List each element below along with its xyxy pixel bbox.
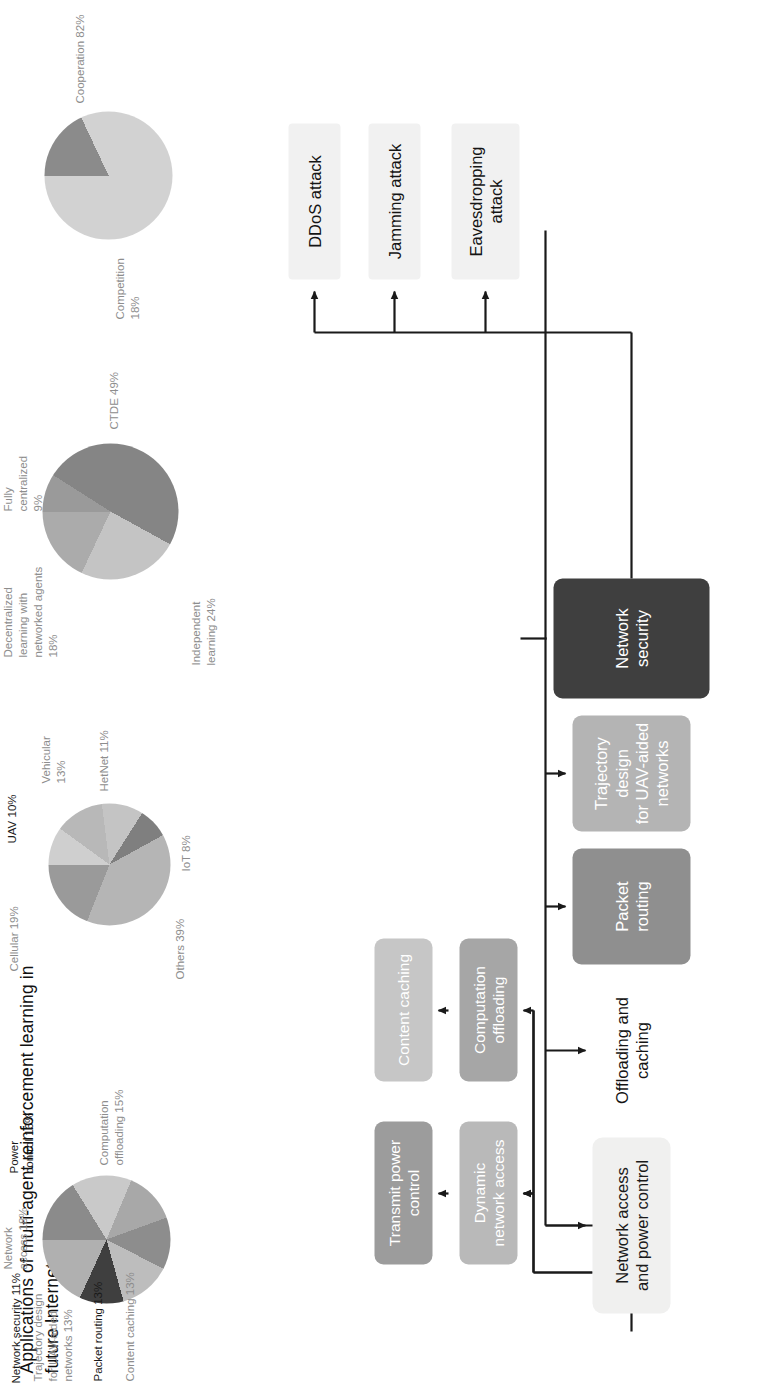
node-network-access-and-power-control[interactable]: Network access and power control xyxy=(592,1137,670,1313)
node-label: Network security xyxy=(611,584,652,692)
node-dynamic-network-access[interactable]: Dynamic network access xyxy=(459,1121,517,1264)
pie-label-others: Others 39% xyxy=(172,899,187,979)
pie-chart-applications xyxy=(42,1175,170,1303)
pie-label-hetnet: HetNet 11% xyxy=(96,715,111,791)
node-label: Network access and power control xyxy=(611,1143,652,1307)
pie-label-packet-routing: Packet routing 13% xyxy=(90,1263,105,1381)
pie-label-content-caching: Content caching 13% xyxy=(122,1263,137,1381)
node-network-security[interactable]: Network security xyxy=(553,578,709,698)
pie-label-independent: Independent learning 24% xyxy=(188,569,218,665)
pie-label-competition: Competition 18% xyxy=(112,237,142,319)
node-eavesdropping-attack[interactable]: Eavesdropping attack xyxy=(451,123,519,279)
pie-label-trajectory: Trajectory design for UAV-aided networks… xyxy=(30,1285,75,1381)
pie-label-decentralized: Decentralized learning with networked ag… xyxy=(0,547,60,657)
node-label: Eavesdropping attack xyxy=(465,129,506,273)
node-label: Packet routing xyxy=(611,854,652,958)
node-packet-routing[interactable]: Packet routing xyxy=(572,848,690,964)
node-label: Trajectory design for UAV-aided networks xyxy=(590,721,672,825)
pie-label-cellular: Cellular 19% xyxy=(6,875,21,971)
node-ddos-attack[interactable]: DDoS attack xyxy=(288,123,340,279)
node-label: Offloading and caching xyxy=(611,981,652,1119)
pie-label-network-security: Network security 11% xyxy=(8,1253,23,1383)
pie-chart-training xyxy=(42,443,178,579)
pie-label-cooperation: Cooperation 82% xyxy=(72,0,87,103)
node-trajectory-design[interactable]: Trajectory design for UAV-aided networks xyxy=(572,715,690,831)
pie-label-fully-centralized: Fully centralized 9% xyxy=(0,425,45,511)
pie-label-power-control: Power control 16% xyxy=(6,1093,36,1173)
node-jamming-attack[interactable]: Jamming attack xyxy=(368,123,420,279)
node-computation-offloading[interactable]: Computation offloading xyxy=(459,938,517,1081)
pie-label-vehicular: Vehicular 13% xyxy=(38,721,68,783)
pie-label-ctde: CTDE 49% xyxy=(106,349,121,429)
node-label: Jamming attack xyxy=(384,129,404,273)
pie-chart-networks xyxy=(48,803,170,925)
figure-canvas-rotated: Applications of multi-agent reinforcemen… xyxy=(0,0,771,1391)
pie-label-uav: UAV 10% xyxy=(4,763,19,843)
node-transmit-power-control[interactable]: Transmit power control xyxy=(374,1121,432,1264)
node-label: Content caching xyxy=(393,944,412,1075)
node-label: Dynamic network access xyxy=(469,1127,507,1258)
pie-label-iot: IoT 8% xyxy=(178,811,193,871)
node-content-caching[interactable]: Content caching xyxy=(374,938,432,1081)
node-label: Transmit power control xyxy=(384,1127,422,1258)
pie-label-computation-offloading: Computation offloading 15% xyxy=(96,1061,126,1165)
pie-chart-interaction xyxy=(44,111,172,239)
figure-canvas: Applications of multi-agent reinforcemen… xyxy=(0,0,771,1391)
node-offloading-and-caching[interactable]: Offloading and caching xyxy=(592,975,670,1125)
node-label: Computation offloading xyxy=(469,944,507,1075)
node-label: DDoS attack xyxy=(304,129,324,273)
pie-label-network-access: Network access 18% xyxy=(0,1187,30,1269)
